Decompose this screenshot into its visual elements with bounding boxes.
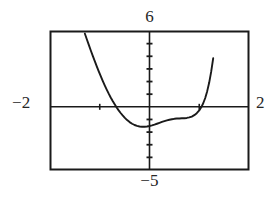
graph-figure: 6 −2 2 −5 bbox=[0, 0, 279, 199]
plot-canvas bbox=[0, 0, 279, 199]
